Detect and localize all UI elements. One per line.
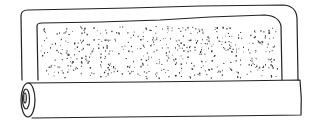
roll-body [28, 80, 301, 118]
rolled-mat-illustration [0, 0, 318, 128]
mat-outer-outline [21, 5, 298, 80]
roll-end-core [24, 93, 27, 103]
speckle-texture [41, 26, 279, 79]
